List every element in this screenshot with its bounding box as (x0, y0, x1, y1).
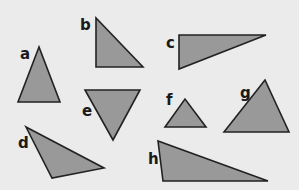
triangle-shape (224, 80, 289, 132)
triangle-shape (85, 90, 140, 140)
triangle-c: c (166, 34, 266, 69)
triangle-label: e (82, 102, 92, 120)
triangle-e: e (82, 90, 140, 140)
triangle-label: c (166, 34, 175, 52)
triangle-label: b (80, 16, 91, 34)
triangle-a: a (18, 45, 60, 102)
triangle-b: b (80, 16, 143, 67)
triangle-shape (96, 18, 143, 67)
triangle-shape (158, 141, 268, 181)
triangle-g: g (224, 80, 289, 132)
triangle-label: f (166, 91, 173, 109)
triangle-label: h (148, 150, 159, 168)
triangle-d: d (18, 127, 104, 178)
triangle-shape (26, 127, 104, 178)
triangle-label: d (18, 134, 29, 152)
triangle-h: h (148, 141, 268, 181)
triangles-diagram: a b c d e f g h (0, 0, 299, 190)
triangle-label: a (20, 45, 30, 63)
triangle-shape (179, 35, 266, 69)
triangle-f: f (165, 91, 206, 127)
triangle-label: g (240, 84, 251, 102)
